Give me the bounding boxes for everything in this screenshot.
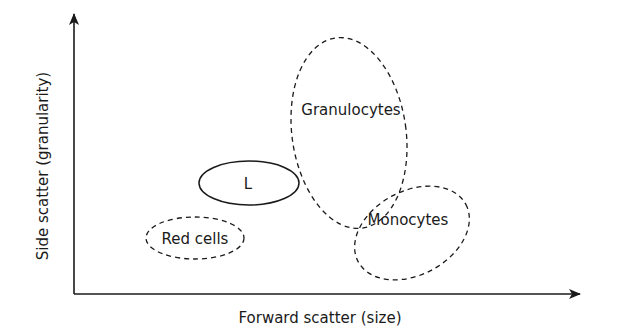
granulocytes-population: Granulocytes [279, 30, 419, 236]
x-axis-label: Forward scatter (size) [238, 309, 401, 327]
red-cells-label: Red cells [162, 230, 229, 248]
granulocytes-gate [279, 30, 419, 236]
scatter-diagram: Forward scatter (size) Side scatter (gra… [0, 0, 619, 335]
monocytes-label: Monocytes [368, 211, 449, 229]
lymphocytes-population: L [199, 161, 299, 205]
monocytes-population: Monocytes [338, 167, 485, 298]
y-axis-label: Side scatter (granularity) [34, 72, 52, 260]
monocytes-gate [338, 167, 485, 298]
lymphocytes-label: L [244, 175, 253, 193]
granulocytes-label: Granulocytes [301, 101, 401, 119]
red-cells-population: Red cells [146, 217, 244, 259]
